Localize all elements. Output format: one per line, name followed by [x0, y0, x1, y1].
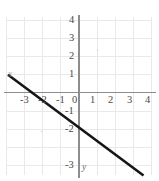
- scan-speck: [97, 50, 98, 51]
- x-tick-label-0: 0: [72, 95, 77, 106]
- y-tick-label-1: 1: [69, 69, 74, 80]
- x-tick-label-1: 1: [90, 95, 95, 106]
- x-tick-label-3: 3: [127, 95, 132, 106]
- y-tick-label-neg2: -2: [65, 124, 74, 135]
- y-tick-label-3: 3: [69, 33, 74, 44]
- x-axis-label: x: [8, 70, 12, 80]
- y-tick-label-2: 2: [69, 51, 74, 62]
- y-axis-label: y: [82, 163, 86, 173]
- y-tick-label-neg3: -3: [65, 160, 74, 171]
- coordinate-plane: [0, 0, 159, 181]
- x-tick-label-4: 4: [145, 95, 150, 106]
- x-tick-label-neg2: -2: [38, 95, 47, 106]
- y-tick-label-neg1: -1: [65, 106, 74, 117]
- y-tick-label-4: 4: [69, 15, 74, 26]
- x-tick-label-neg1: -1: [56, 95, 65, 106]
- graph-figure: 4 3 2 1 -1 -2 -3 -3 -2 -1 0 1 2 3 4 x y: [0, 0, 159, 181]
- plotted-line: [8, 75, 144, 176]
- x-tick-label-2: 2: [108, 95, 113, 106]
- x-tick-label-neg3: -3: [20, 95, 29, 106]
- scan-speck: [41, 131, 42, 132]
